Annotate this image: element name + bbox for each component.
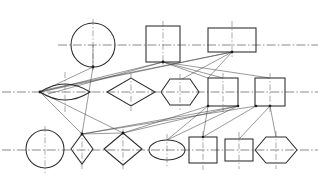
connector-lines [40,45,276,140]
hub-point[interactable] [237,105,240,108]
shape-group-bottom-row [26,126,297,173]
connector-line [239,106,270,139]
row-axes [2,45,318,150]
hub-point[interactable] [207,105,210,108]
connector-line [163,62,223,78]
diagram-canvas [0,0,318,186]
hub-point[interactable] [231,51,234,54]
hub-point[interactable] [269,105,272,108]
hub-point[interactable] [92,66,95,69]
connector-line [123,106,208,133]
top-text-fragment [0,0,318,9]
connector-line [82,67,93,134]
hub-point[interactable] [81,133,84,136]
hub-point[interactable] [255,105,258,108]
connector-line [163,62,208,78]
connector-line [270,106,276,137]
hub-point[interactable] [202,136,204,138]
connector-line [82,106,256,134]
connector-line [167,106,208,140]
hub-point[interactable] [162,61,165,64]
connector-line [40,62,163,92]
connector-line [182,52,232,79]
technical-shape-diagram [0,0,318,186]
connector-line [82,106,238,134]
connector-line [163,62,270,78]
hub-point[interactable] [39,91,42,94]
hub-point[interactable] [122,132,125,135]
